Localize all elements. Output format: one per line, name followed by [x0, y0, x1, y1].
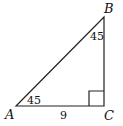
angle-b-value: 45: [90, 30, 104, 43]
vertex-label-a: A: [4, 107, 14, 122]
vertex-label-b: B: [103, 1, 114, 16]
vertex-label-c: C: [104, 108, 114, 123]
angle-a-value: 45: [27, 94, 41, 107]
side-ac-length: 9: [60, 109, 67, 122]
triangle-diagram: A B C 45 45 9: [0, 0, 123, 126]
right-angle-marker: [89, 91, 104, 106]
